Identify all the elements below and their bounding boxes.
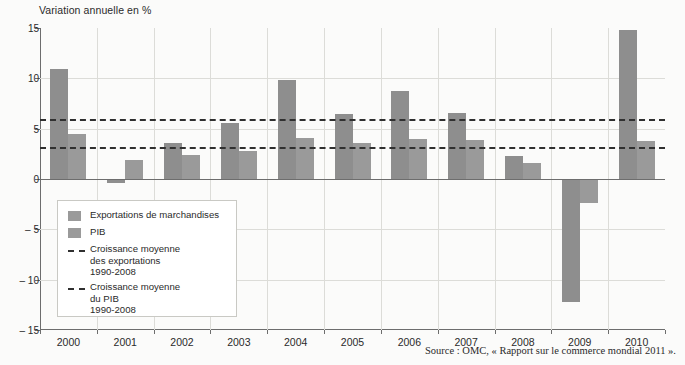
x-tick-label-2005: 2005 [341, 336, 364, 348]
bar-exports-2007 [448, 113, 466, 179]
x-tick-mark [381, 330, 382, 334]
legend-swatch-gdp-icon [68, 228, 81, 238]
average-line-exports [40, 119, 665, 121]
legend-dashed-line-gdp-icon [68, 288, 85, 290]
y-tick-label: 10 [28, 73, 39, 84]
x-tick-mark [40, 330, 41, 334]
y-tick-label: – 10 [20, 274, 39, 285]
gridline-horizontal [40, 78, 665, 79]
x-tick-label-2000: 2000 [57, 336, 80, 348]
x-axis-line [40, 329, 665, 330]
legend-swatch-exports-icon [68, 211, 81, 221]
bar-exports-2000 [50, 69, 68, 179]
legend-item-gdp: PIB [68, 226, 105, 238]
bar-exports-2004 [278, 80, 296, 179]
x-tick-mark [438, 330, 439, 334]
legend-label-avg-exports: Croissance moyenne des exportations 1990… [90, 243, 180, 278]
bar-exports-2006 [391, 91, 409, 179]
gridline-horizontal [40, 129, 665, 130]
x-tick-label-2003: 2003 [227, 336, 250, 348]
zero-baseline [40, 179, 665, 180]
legend-item-avg-gdp: Croissance moyenne du PIB 1990-2008 [68, 281, 180, 316]
chart-figure: Variation annuelle en % 151050– 5– 10– 1… [0, 0, 685, 365]
bar-gdp-2009 [580, 179, 598, 203]
x-tick-label-2002: 2002 [170, 336, 193, 348]
legend-label-gdp: PIB [90, 226, 105, 238]
x-tick-label-2001: 2001 [114, 336, 137, 348]
bar-exports-2009 [562, 179, 580, 302]
bar-gdp-2008 [523, 163, 541, 179]
bar-gdp-2002 [182, 155, 200, 179]
y-tick-label: 15 [28, 23, 39, 34]
x-tick-mark [608, 330, 609, 334]
bar-gdp-2006 [409, 139, 427, 179]
legend-dashed-line-exports-icon [68, 250, 85, 252]
x-tick-mark [324, 330, 325, 334]
y-tick-label: – 5 [25, 224, 39, 235]
x-tick-mark [154, 330, 155, 334]
legend-item-avg-exports: Croissance moyenne des exportations 1990… [68, 243, 180, 278]
legend-label-avg-gdp: Croissance moyenne du PIB 1990-2008 [90, 281, 180, 316]
x-tick-mark [665, 330, 666, 334]
legend-item-exports: Exportations de marchandises [68, 209, 219, 221]
bar-gdp-2003 [239, 151, 257, 179]
chart-legend: Exportations de marchandises PIB Croissa… [57, 200, 237, 317]
bar-gdp-2000 [68, 134, 86, 179]
chart-title: Variation annuelle en % [39, 4, 151, 16]
bar-exports-2003 [221, 123, 239, 179]
legend-label-exports: Exportations de marchandises [90, 209, 219, 221]
y-tick-label: 0 [33, 174, 39, 185]
bar-gdp-2001 [125, 160, 143, 179]
y-tick-label: 5 [33, 123, 39, 134]
average-line-gdp [40, 147, 665, 149]
x-tick-mark [495, 330, 496, 334]
bar-exports-2010 [619, 30, 637, 179]
bar-gdp-2004 [296, 138, 314, 179]
y-tick-label: – 15 [20, 325, 39, 336]
bar-exports-2008 [505, 156, 523, 179]
x-tick-mark [267, 330, 268, 334]
x-tick-label-2006: 2006 [398, 336, 421, 348]
x-tick-mark [97, 330, 98, 334]
bar-gdp-2007 [466, 140, 484, 179]
x-tick-mark [551, 330, 552, 334]
source-note: Source : OMC, « Rapport sur le commerce … [425, 345, 676, 356]
x-tick-mark [210, 330, 211, 334]
x-tick-label-2004: 2004 [284, 336, 307, 348]
